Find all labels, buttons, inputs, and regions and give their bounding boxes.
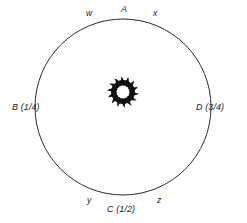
arc-label-z: z [157, 196, 161, 205]
arc-label-y: y [87, 196, 91, 205]
point-label-a: A [121, 5, 127, 14]
arc-label-x: x [153, 9, 157, 18]
circle-diagram-figure: A w x B (1/4) D (3/4) y C (1/2) z [0, 0, 247, 223]
arc-label-w: w [86, 9, 92, 18]
main-circle [35, 19, 211, 195]
point-label-d: D (3/4) [196, 103, 224, 112]
point-label-c: C (1/2) [107, 205, 135, 214]
swirl-sunburst-icon [107, 76, 139, 108]
point-label-b: B (1/4) [12, 103, 40, 112]
